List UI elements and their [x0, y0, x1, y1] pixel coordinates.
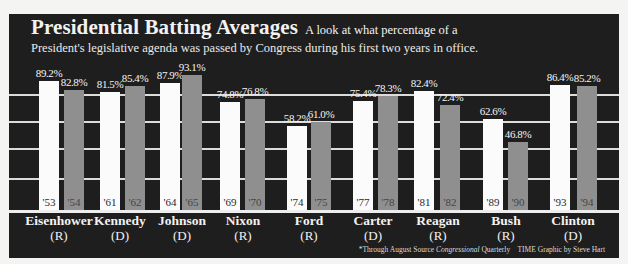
value-label: 85.2%	[567, 72, 607, 84]
value-label: 85.4%	[115, 72, 155, 84]
value-label: 82.8%	[54, 76, 94, 88]
chart-frame: '5389.2%'6181.5%'6487.9%'6974.8%'7458.2%…	[9, 14, 619, 258]
president-name: Kennedy	[94, 213, 146, 228]
second-year-bar: '75	[311, 122, 331, 210]
year-label: '78	[378, 196, 398, 208]
value-label: 72.4%	[430, 91, 470, 103]
first-year-bar: '81	[414, 91, 434, 210]
second-year-bar: '70	[245, 99, 265, 210]
source-name-tail: Quarterly	[481, 245, 510, 254]
president-name: Johnson	[158, 213, 206, 228]
first-year-bar: '93	[550, 85, 570, 210]
year-label: '94	[577, 196, 597, 208]
year-label: '82	[440, 196, 460, 208]
first-year-bar: '53	[39, 81, 59, 210]
source-credit: *Through August Source Congressional Qua…	[359, 245, 605, 254]
chart-title: Presidential Batting Averages	[31, 15, 298, 39]
first-year-bar: '64	[160, 83, 180, 210]
president-name: Clinton	[551, 213, 595, 228]
first-year-bar: '61	[100, 92, 120, 210]
first-year-bar: '77	[353, 101, 373, 210]
year-label: '77	[353, 196, 373, 208]
value-label: 76.8%	[235, 85, 275, 97]
year-label: '75	[311, 196, 331, 208]
first-year-bar: '74	[287, 126, 307, 210]
year-label: '53	[39, 196, 59, 208]
year-label: '93	[550, 196, 570, 208]
party-label: (D)	[533, 228, 613, 243]
value-label: 46.8%	[498, 128, 538, 140]
value-label: 78.3%	[368, 82, 408, 94]
year-label: '89	[483, 196, 503, 208]
president-name: Reagan	[416, 213, 460, 228]
year-label: '61	[100, 196, 120, 208]
value-label: 93.1%	[172, 61, 212, 73]
second-year-bar: '65	[182, 75, 202, 210]
year-label: '65	[182, 196, 202, 208]
second-year-bar: '78	[378, 96, 398, 210]
year-label: '62	[125, 196, 145, 208]
second-year-bar: '90	[508, 142, 528, 210]
year-label: '70	[245, 196, 265, 208]
year-label: '81	[414, 196, 434, 208]
chart-subtitle-part1: A look at what percentage of a	[305, 23, 458, 37]
source-name: Congressional	[436, 245, 479, 254]
president-name: Carter	[354, 213, 393, 228]
president-label: Clinton(D)	[533, 213, 613, 243]
first-year-bar: '69	[220, 102, 240, 210]
year-label: '64	[160, 196, 180, 208]
year-label: '74	[287, 196, 307, 208]
president-name: Ford	[295, 213, 324, 228]
graphic-credit: TIME Graphic by Steve Hart	[518, 245, 605, 254]
president-name: Bush	[491, 213, 520, 228]
second-year-bar: '54	[64, 90, 84, 210]
footnote: *Through August Source	[359, 245, 434, 254]
second-year-bar: '94	[577, 86, 597, 210]
value-label: 61.0%	[301, 108, 341, 120]
president-name: Nixon	[226, 213, 261, 228]
year-label: '90	[508, 196, 528, 208]
chart-title-row: Presidential Batting Averages A look at …	[31, 15, 458, 40]
year-label: '54	[64, 196, 84, 208]
second-year-bar: '82	[440, 105, 460, 210]
second-year-bar: '62	[125, 86, 145, 210]
chart-subtitle-part2: President's legislative agenda was passe…	[31, 41, 478, 56]
value-label: 82.4%	[404, 77, 444, 89]
value-label: 62.6%	[473, 105, 513, 117]
year-label: '69	[220, 196, 240, 208]
